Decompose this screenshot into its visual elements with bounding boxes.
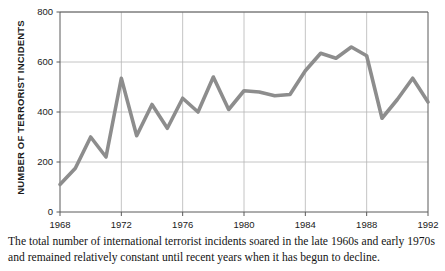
x-tick-label: 1976 [172,219,193,230]
y-tick-label: 600 [37,56,53,67]
y-tick-label: 400 [37,106,53,117]
y-tick-label: 200 [37,156,53,167]
x-tick-label: 1980 [233,219,254,230]
y-axis-tick-labels: 0200400600800 [37,6,53,217]
x-tick-label: 1992 [417,219,438,230]
y-tick-label: 0 [48,206,53,217]
x-tick-label: 1988 [356,219,377,230]
axes [57,12,429,216]
x-tick-label: 1968 [49,219,70,230]
y-tick-label: 800 [37,6,53,17]
figure-caption: The total number of international terror… [0,234,445,265]
chart-figure: NUMBER OF TERRORIST INCIDENTS 0200400600… [0,0,445,234]
line-chart: 0200400600800 19681972197619801984198819… [0,0,445,234]
x-tick-label: 1972 [111,219,132,230]
chart-page: NUMBER OF TERRORIST INCIDENTS 0200400600… [0,0,445,271]
x-tick-label: 1984 [295,219,316,230]
x-axis-tick-labels: 1968197219761980198419881992 [49,219,438,230]
